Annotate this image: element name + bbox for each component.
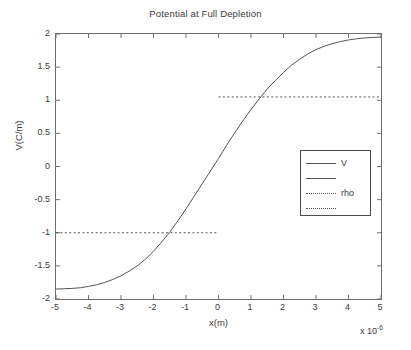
x-tick-label: -3 xyxy=(107,302,133,312)
chart-figure: Potential at Full Depletion 21.510.50-0.… xyxy=(0,0,411,350)
chart-legend[interactable]: Vrho xyxy=(300,150,371,216)
x-tick-label: 0 xyxy=(205,302,231,312)
x-axis-exponent: x 10-6 xyxy=(360,324,383,336)
legend-line-icon xyxy=(306,163,336,164)
legend-item-label: V xyxy=(341,159,347,168)
legend-line-icon xyxy=(306,193,336,194)
legend-line-icon xyxy=(306,208,336,209)
y-tick-label: -1.5 xyxy=(6,260,50,270)
x-tick-label: 2 xyxy=(270,302,296,312)
y-tick-label: -1 xyxy=(6,227,50,237)
x-tick-label: 4 xyxy=(335,302,361,312)
x-tick-label: -4 xyxy=(75,302,101,312)
x-tick-label: -2 xyxy=(140,302,166,312)
y-axis-title: V(C/m) xyxy=(13,96,24,176)
x-tick-label: 1 xyxy=(237,302,263,312)
x-axis-exponent-base: x 10 xyxy=(360,326,377,336)
x-tick-label: -1 xyxy=(172,302,198,312)
y-tick-label: 2 xyxy=(6,28,50,38)
legend-item[interactable]: V xyxy=(301,155,372,171)
x-tick-label: 3 xyxy=(302,302,328,312)
legend-item[interactable] xyxy=(301,200,372,216)
legend-item-label: rho xyxy=(341,189,354,198)
legend-line-icon xyxy=(306,178,336,179)
x-tick-label: 5 xyxy=(367,302,393,312)
x-tick-label: -5 xyxy=(42,302,68,312)
chart-title: Potential at Full Depletion xyxy=(0,8,411,19)
x-axis-exponent-power: -6 xyxy=(377,324,383,331)
legend-item[interactable] xyxy=(301,170,372,186)
y-tick-label: -0.5 xyxy=(6,194,50,204)
x-axis-title: x(m) xyxy=(55,317,382,328)
y-tick-label: 1.5 xyxy=(6,61,50,71)
legend-item[interactable]: rho xyxy=(301,185,372,201)
